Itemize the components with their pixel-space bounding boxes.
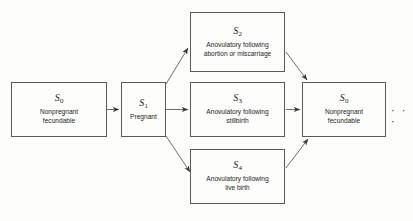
state-symbol: S2 bbox=[233, 26, 242, 36]
state-node-s1[interactable]: S1 Pregnant bbox=[121, 82, 166, 137]
state-description: Nonpregnant fecundable bbox=[37, 108, 81, 126]
state-description: Anovulatory following live birth bbox=[203, 175, 271, 193]
edge-s1-to-s2 bbox=[166, 48, 188, 84]
state-description: Anovulatory following abortion or miscar… bbox=[201, 41, 274, 59]
state-node-s2[interactable]: S2 Anovulatory following abortion or mis… bbox=[190, 12, 285, 72]
state-description: Nonpregnant fecundable bbox=[322, 108, 366, 126]
diagram-canvas: S0 Nonpregnant fecundable S1 Pregnant S2… bbox=[0, 0, 413, 221]
state-symbol: S4 bbox=[233, 160, 242, 170]
edge-s1-to-s4 bbox=[166, 136, 190, 172]
state-description: Pregnant bbox=[127, 113, 160, 122]
state-node-s0-left[interactable]: S0 Nonpregnant fecundable bbox=[11, 82, 107, 137]
continuation-ellipsis: · · · bbox=[391, 105, 413, 127]
state-symbol: S0 bbox=[340, 93, 349, 103]
state-symbol: S3 bbox=[233, 93, 242, 103]
state-symbol: S0 bbox=[55, 93, 64, 103]
edge-s2-to-s0 bbox=[286, 52, 307, 80]
state-node-s0-right[interactable]: S0 Nonpregnant fecundable bbox=[302, 82, 386, 137]
state-node-s4[interactable]: S4 Anovulatory following live birth bbox=[190, 149, 285, 204]
state-node-s3[interactable]: S3 Anovulatory following stillbirth bbox=[190, 82, 285, 137]
edge-s4-to-s0 bbox=[286, 139, 308, 168]
state-symbol: S1 bbox=[139, 98, 148, 108]
state-description: Anovulatory following stillbirth bbox=[203, 108, 271, 126]
